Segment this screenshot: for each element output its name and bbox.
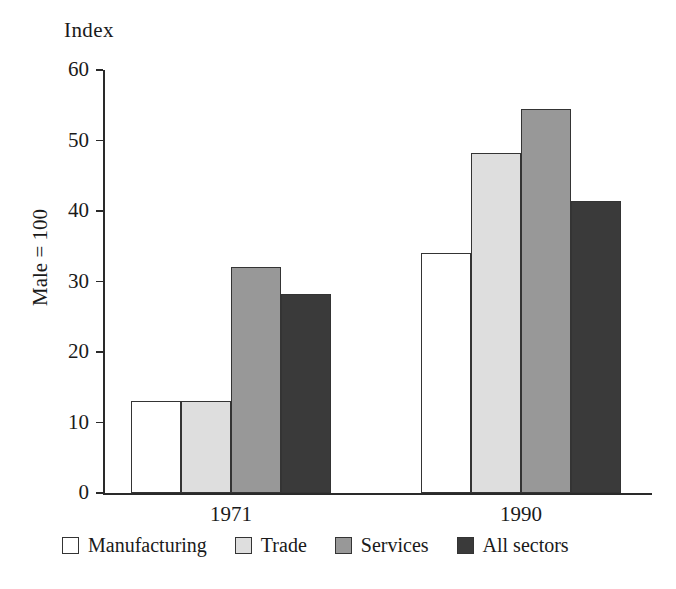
legend-item-services: Services [335, 535, 429, 555]
legend-label: Services [361, 535, 429, 555]
legend-label: Trade [261, 535, 307, 555]
x-axis-label-1971: 1971 [131, 502, 331, 527]
legend-swatch [335, 537, 352, 554]
bar-trade-1971 [181, 401, 231, 493]
y-axis-tick: 40 [96, 210, 103, 211]
legend-item-manufacturing: Manufacturing [62, 535, 207, 555]
chart-legend: ManufacturingTradeServicesAll sectors [62, 535, 662, 555]
legend-swatch [457, 537, 474, 554]
bar-all-sectors-1971 [281, 294, 331, 494]
legend-label: All sectors [483, 535, 569, 555]
legend-swatch [235, 537, 252, 554]
bar-services-1971 [231, 267, 281, 493]
y-axis-tick: 20 [96, 351, 103, 352]
y-axis-tick-label: 40 [68, 198, 89, 223]
plot-area: 0102030405060 19711990 [103, 70, 652, 493]
y-axis-tick: 60 [96, 69, 103, 70]
bar-manufacturing-1990 [421, 253, 471, 493]
y-axis-tick: 0 [96, 492, 103, 493]
y-axis-tick: 10 [96, 422, 103, 423]
bar-services-1990 [521, 109, 571, 493]
legend-label: Manufacturing [88, 535, 207, 555]
bar-trade-1990 [471, 153, 521, 494]
x-axis-line [103, 493, 652, 495]
y-axis-tick-label: 10 [68, 410, 89, 435]
y-axis-tick-label: 50 [68, 128, 89, 153]
bar-manufacturing-1971 [131, 401, 181, 493]
bar-chart-figure: Index Male = 100 0102030405060 19711990 … [0, 0, 676, 589]
y-axis-title: Male = 100 [28, 158, 53, 358]
y-axis-tick-label: 20 [68, 339, 89, 364]
legend-swatch [62, 537, 79, 554]
y-axis-tick: 50 [96, 140, 103, 141]
y-axis-tick-label: 30 [68, 269, 89, 294]
bar-all-sectors-1990 [571, 201, 621, 493]
legend-item-trade: Trade [235, 535, 307, 555]
y-axis-tick-label: 0 [79, 480, 90, 505]
y-axis-tick-label: 60 [68, 57, 89, 82]
index-axis-caption: Index [64, 18, 114, 43]
legend-item-all-sectors: All sectors [457, 535, 569, 555]
x-axis-label-1990: 1990 [421, 502, 621, 527]
y-axis-line [103, 70, 105, 493]
y-axis-tick: 30 [96, 281, 103, 282]
